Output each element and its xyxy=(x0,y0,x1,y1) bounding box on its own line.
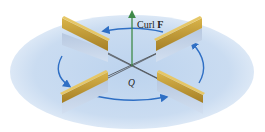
point-q-label: Q xyxy=(128,78,135,88)
curl-f-label: Curl F xyxy=(137,19,163,30)
paddle-wheel-diagram: Curl F Q xyxy=(0,0,265,132)
